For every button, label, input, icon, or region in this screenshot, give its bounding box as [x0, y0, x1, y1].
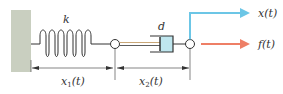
- damper-fluid: [160, 36, 173, 52]
- dim-arrow-left-icon: [117, 66, 124, 70]
- x-output-label: x(t): [258, 7, 277, 20]
- f-input-label: f(t): [257, 38, 275, 51]
- fixed-wall: [11, 10, 31, 72]
- f-arrowhead-icon: [240, 39, 250, 49]
- dim-arrow-left-icon: [32, 66, 39, 70]
- dim-arrow-right-icon: [106, 66, 113, 70]
- dim-arrow-right-icon: [182, 66, 189, 70]
- damper-label: d: [158, 20, 165, 33]
- node-left: [111, 40, 120, 49]
- x-arrowhead-icon: [240, 8, 250, 18]
- x-output-arrow: [190, 13, 243, 40]
- spring-label: k: [63, 13, 70, 26]
- dim-x1-label: x1(t): [61, 75, 85, 89]
- node-right: [186, 40, 195, 49]
- spring: [40, 30, 91, 57]
- spring-damper-diagram: k d x(t) f(t) x1(t) x2(t): [0, 0, 283, 94]
- dim-x2-label: x2(t): [139, 75, 163, 89]
